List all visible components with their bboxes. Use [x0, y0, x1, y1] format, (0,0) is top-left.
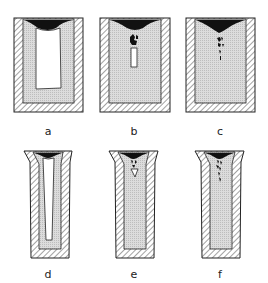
secondary-pipe	[131, 48, 137, 67]
panel-d: d	[24, 151, 72, 281]
panel-label: a	[45, 125, 52, 138]
panel-a: a	[14, 18, 83, 138]
panel-label: d	[45, 268, 52, 281]
panel-b: b	[100, 18, 170, 138]
panel-label: e	[131, 268, 138, 281]
ingot-solidification-diagram: a b c d e f	[0, 0, 268, 283]
panel-c: c	[186, 18, 255, 138]
panel-label: b	[131, 125, 138, 138]
panel-label: c	[217, 125, 223, 138]
open-pipe	[36, 28, 61, 89]
panel-e: e	[109, 151, 158, 281]
panel-f: f	[195, 151, 244, 281]
panel-label: f	[218, 268, 223, 281]
